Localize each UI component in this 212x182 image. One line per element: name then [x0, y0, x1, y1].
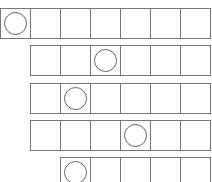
circle-icon	[94, 49, 117, 72]
grid-row-3	[30, 83, 211, 114]
grid-cell	[61, 121, 91, 150]
grid-cell	[61, 9, 91, 38]
grid-row-2	[30, 45, 211, 76]
grid-cell	[151, 9, 181, 38]
grid-cell	[151, 121, 181, 150]
grid-cell	[1, 9, 31, 38]
grid-cell	[121, 46, 151, 75]
grid-cell	[91, 46, 121, 75]
grid-cell	[31, 9, 61, 38]
grid-cell	[91, 84, 121, 113]
grid-cell	[31, 46, 61, 75]
grid-cell	[181, 121, 211, 150]
circle-icon	[124, 124, 147, 147]
grid-cell	[91, 158, 121, 182]
grid-row-5	[60, 157, 211, 182]
grid-cell	[151, 46, 181, 75]
circle-icon	[64, 87, 87, 110]
grid-cell	[91, 121, 121, 150]
grid-cell	[121, 121, 151, 150]
circle-icon	[64, 161, 87, 182]
grid-cell	[181, 9, 211, 38]
grid-cell	[31, 121, 61, 150]
grid-cell	[61, 158, 91, 182]
grid-cell	[151, 84, 181, 113]
grid-row-4	[30, 120, 211, 151]
grid-cell	[151, 158, 181, 182]
grid-cell	[181, 46, 211, 75]
grid-cell	[91, 9, 121, 38]
grid-cell	[61, 84, 91, 113]
grid-cell	[121, 9, 151, 38]
grid-cell	[31, 84, 61, 113]
grid-cell	[121, 84, 151, 113]
grid-cell	[181, 158, 211, 182]
grid-cell	[121, 158, 151, 182]
circle-icon	[4, 12, 27, 35]
grid-cell	[181, 84, 211, 113]
grid-cell	[61, 46, 91, 75]
grid-row-1	[0, 8, 211, 39]
